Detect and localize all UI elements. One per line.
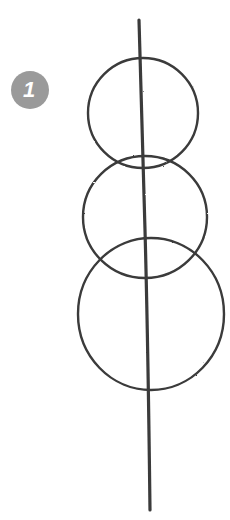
bottom-circle: [78, 238, 224, 390]
sketch-drawing: [0, 0, 230, 520]
vertical-guideline: [139, 20, 150, 510]
